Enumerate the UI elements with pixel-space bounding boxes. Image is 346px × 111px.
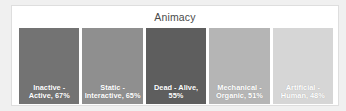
bar-series: Inactive - Active, 67% Static - Interact… xyxy=(19,28,333,104)
bar-item[interactable]: Artificial - Human, 48% xyxy=(273,28,333,104)
bar-item[interactable]: Dead - Alive, 55% xyxy=(146,28,206,104)
bar-label: Static - Interactive, 65% xyxy=(82,84,142,104)
bar-item[interactable]: Static - Interactive, 65% xyxy=(82,28,142,104)
chart-card: Animacy Inactive - Active, 67% Static - … xyxy=(11,5,339,106)
bar-label: Artificial - Human, 48% xyxy=(273,84,333,104)
bar-label: Inactive - Active, 67% xyxy=(19,84,79,104)
bar-label: Dead - Alive, 55% xyxy=(146,84,206,104)
bar-item[interactable]: Inactive - Active, 67% xyxy=(19,28,79,104)
chart-frame: Animacy Inactive - Active, 67% Static - … xyxy=(0,0,346,111)
bar-label: Mechanical - Organic, 51% xyxy=(209,84,269,104)
chart-title: Animacy xyxy=(12,11,338,24)
bar-item[interactable]: Mechanical - Organic, 51% xyxy=(209,28,269,104)
